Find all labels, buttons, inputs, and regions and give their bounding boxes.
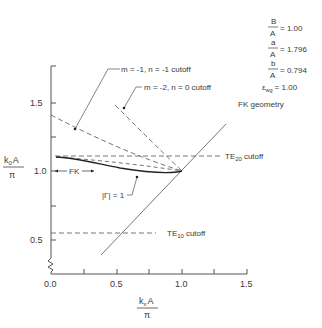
y-tick-0.5: 0.5	[30, 235, 43, 245]
m1-cutoff-label: m = -1, n = -1 cutoff	[121, 65, 191, 74]
x-axis-label: kxA π	[137, 296, 158, 320]
chart-canvas: 1.5 1.0 0.5 0.0 0.5 1.0 1.5 k0A π kxA π	[0, 0, 322, 328]
param-eps-wg: εwg= 1.00	[262, 83, 298, 93]
svg-text:a: a	[271, 38, 276, 47]
svg-text:k0A: k0A	[4, 155, 19, 166]
svg-text:A: A	[270, 50, 276, 59]
svg-text:A: A	[270, 29, 276, 38]
fk-label: FK	[69, 167, 80, 176]
param-B-over-A: = 1.00	[280, 24, 303, 33]
axis-break-icon	[48, 258, 53, 274]
svg-text:B: B	[271, 17, 276, 26]
te10-label: TE10cutoff	[167, 229, 206, 239]
chart-title: FK geometry	[238, 100, 284, 109]
svg-text:b: b	[271, 59, 276, 68]
x-tick-0.5: 0.5	[110, 279, 123, 289]
te20-label: TE20cutoff	[225, 152, 264, 162]
x-tick-1.5: 1.5	[240, 279, 253, 289]
y-axis-label: k0A π	[3, 155, 24, 180]
m2-cutoff-label: m = -2, n = 0 cutoff	[144, 83, 212, 92]
param-a-over-A: = 1.796	[280, 45, 307, 54]
param-b-over-A: = 0.794	[280, 66, 307, 75]
y-tick-1.0: 1.0	[34, 166, 47, 176]
y-tick-labels: 1.5 1.0 0.5	[30, 98, 47, 245]
y-tick-1.5: 1.5	[30, 98, 43, 108]
svg-text:π: π	[144, 310, 150, 320]
x-tick-0.0: 0.0	[44, 279, 57, 289]
m1-cutoff-curve	[51, 115, 182, 171]
svg-text:A: A	[270, 71, 276, 80]
parameter-legend: B A = 1.00 a A = 1.796 b A = 0.794 εwg= …	[238, 17, 307, 109]
m2-cutoff-curve	[115, 105, 182, 171]
light-line	[101, 124, 226, 255]
x-tick-labels: 0.0 0.5 1.0 1.5	[44, 279, 253, 289]
gamma-label: |Γ| = 1	[102, 191, 125, 200]
svg-text:π: π	[9, 170, 15, 180]
svg-text:kxA: kxA	[139, 296, 154, 307]
x-tick-1.0: 1.0	[175, 279, 188, 289]
annotations: m = -1, n = -1 cutoff m = -2, n = 0 cuto…	[55, 65, 264, 239]
